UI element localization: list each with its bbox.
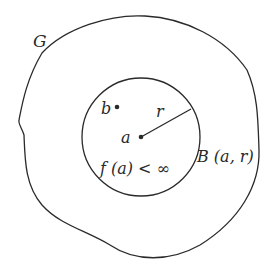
radius-line [141,109,191,137]
radius-label: r [156,102,165,121]
point-b-label: b [101,99,111,118]
diagram-canvas: G b r a f (a) < ∞ B (a, r) [0,0,273,272]
region-g-label: G [33,31,47,51]
condition-label: f (a) < ∞ [99,159,170,178]
point-a-label: a [121,128,131,147]
point-a [139,135,144,140]
ball-label: B (a, r) [196,147,254,166]
point-b [115,105,120,110]
